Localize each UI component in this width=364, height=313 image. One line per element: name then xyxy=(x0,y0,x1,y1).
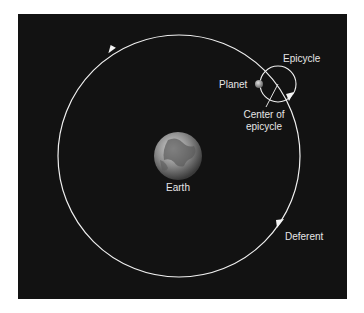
deferent-label: Deferent xyxy=(285,231,324,242)
planet-label: Planet xyxy=(219,79,248,90)
deferent-arrow-icon xyxy=(108,45,117,54)
epicycle-diagram: Epicycle Planet Center of epicycle Earth… xyxy=(0,0,364,313)
center-of-epicycle-label-line1: Center of xyxy=(243,109,284,120)
center-of-epicycle-label-line2: epicycle xyxy=(246,121,283,132)
earth-globe-icon xyxy=(154,132,202,180)
planet-dot xyxy=(255,80,263,88)
deferent-arrow-icon xyxy=(276,219,284,228)
earth-label: Earth xyxy=(166,182,190,193)
center-pointer-line xyxy=(266,84,278,107)
epicycle-label: Epicycle xyxy=(283,53,321,64)
